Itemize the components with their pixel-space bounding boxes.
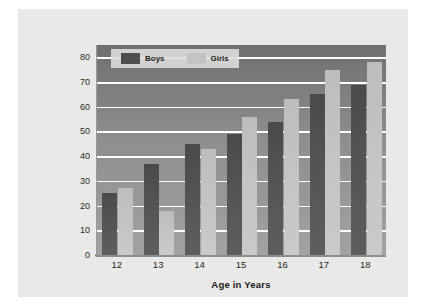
bar-girls-15 <box>242 117 257 255</box>
bar-group <box>304 45 345 255</box>
bar-girls-17 <box>325 70 340 255</box>
x-axis-title: Age in Years <box>96 279 386 290</box>
bar-group <box>97 45 138 255</box>
bar-girls-14 <box>201 149 216 255</box>
y-tick-label: 50 <box>80 126 90 136</box>
bar-group <box>221 45 262 255</box>
chart-legend: BoysGirls <box>111 49 239 68</box>
bar-series-container <box>97 45 386 255</box>
x-tick-label: 18 <box>360 259 371 270</box>
y-tick-label: 70 <box>80 77 90 87</box>
bar-boys-18 <box>351 85 366 255</box>
bar-boys-16 <box>268 122 283 255</box>
x-tick-label: 12 <box>111 259 122 270</box>
bar-group <box>263 45 304 255</box>
x-axis-ticks: 12131415161718 <box>96 259 386 275</box>
bar-girls-13 <box>159 211 174 255</box>
x-tick-label: 13 <box>153 259 164 270</box>
chart-page: Percentage Reporting a Romantic Relation… <box>0 0 426 306</box>
y-tick-label: 40 <box>80 151 90 161</box>
bar-boys-13 <box>144 164 159 255</box>
x-axis-line <box>96 255 386 257</box>
y-tick-label: 80 <box>80 52 90 62</box>
bar-boys-14 <box>185 144 200 255</box>
bar-girls-16 <box>284 99 299 255</box>
x-tick-label: 15 <box>236 259 247 270</box>
plot-area: BoysGirls <box>96 45 386 255</box>
bar-group <box>180 45 221 255</box>
chart-panel: Percentage Reporting a Romantic Relation… <box>18 9 408 297</box>
legend-item-boys[interactable]: Boys <box>121 53 165 64</box>
legend-label: Girls <box>211 54 229 63</box>
bar-group <box>346 45 387 255</box>
y-tick-label: 0 <box>85 250 90 260</box>
bar-boys-12 <box>102 193 117 255</box>
bar-girls-12 <box>118 188 133 255</box>
bar-group <box>138 45 179 255</box>
legend-swatch-boys <box>121 53 140 64</box>
legend-item-girls[interactable]: Girls <box>187 53 229 64</box>
y-axis-ticks: 01020304050607080 <box>70 45 94 255</box>
x-tick-label: 16 <box>277 259 288 270</box>
x-tick-label: 17 <box>319 259 330 270</box>
bar-boys-15 <box>227 134 242 255</box>
legend-swatch-girls <box>187 53 206 64</box>
y-tick-label: 60 <box>80 102 90 112</box>
y-tick-label: 30 <box>80 176 90 186</box>
y-tick-label: 10 <box>80 225 90 235</box>
bar-boys-17 <box>310 94 325 255</box>
x-tick-label: 14 <box>194 259 205 270</box>
bar-girls-18 <box>367 62 382 255</box>
legend-label: Boys <box>145 54 165 63</box>
y-tick-label: 20 <box>80 201 90 211</box>
